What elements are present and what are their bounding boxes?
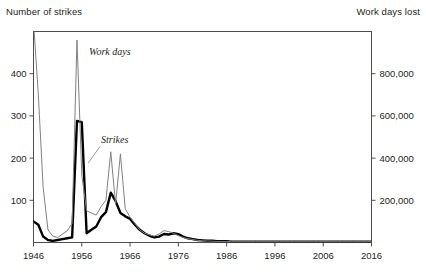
x-tick-label-1946: 1946 bbox=[23, 250, 44, 261]
y2-tick-label-400,000: 400,000 bbox=[380, 153, 414, 164]
y2-tick-label-800,000: 800,000 bbox=[380, 68, 414, 79]
x-tick-label-1956: 1956 bbox=[71, 250, 92, 261]
x-tick-label-1976: 1976 bbox=[168, 250, 189, 261]
x-tick-label-1986: 1986 bbox=[216, 250, 237, 261]
plot-area: 100200300400 200,000400,000600,000800,00… bbox=[0, 0, 426, 275]
data-series-group bbox=[34, 21, 372, 242]
x-tick-label-2016: 2016 bbox=[361, 250, 382, 261]
y-axis-ticks: 100200300400 bbox=[11, 68, 34, 206]
series-annotations: Work daysStrikes bbox=[88, 46, 131, 163]
x-tick-label-2006: 2006 bbox=[313, 250, 334, 261]
y2-axis-ticks: 200,000400,000600,000800,000 bbox=[372, 68, 414, 206]
series-line-work-days bbox=[34, 21, 372, 242]
series-line-strikes bbox=[34, 121, 372, 242]
y-tick-label-300: 300 bbox=[11, 110, 27, 121]
y-tick-label-100: 100 bbox=[11, 195, 27, 206]
strikes-chart-figure: Number of strikes Work days lost 1002003… bbox=[0, 0, 426, 275]
x-tick-label-1996: 1996 bbox=[264, 250, 285, 261]
y2-tick-label-200,000: 200,000 bbox=[380, 195, 414, 206]
y-tick-label-400: 400 bbox=[11, 68, 27, 79]
strikes-leader-line bbox=[88, 146, 100, 163]
plot-frame bbox=[34, 32, 372, 243]
x-tick-label-1966: 1966 bbox=[120, 250, 141, 261]
annotation-strikes: Strikes bbox=[101, 134, 128, 145]
x-axis-ticks: 19461956196619761986199620062016 bbox=[23, 243, 382, 261]
annotation-work-days: Work days bbox=[89, 46, 131, 57]
y2-tick-label-600,000: 600,000 bbox=[380, 110, 414, 121]
y-tick-label-200: 200 bbox=[11, 153, 27, 164]
